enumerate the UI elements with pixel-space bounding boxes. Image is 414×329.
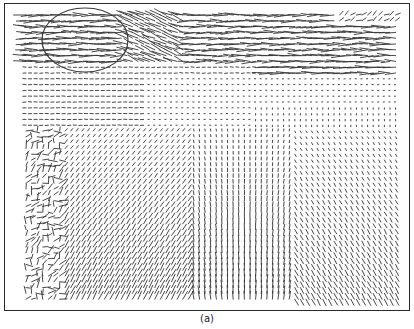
- figure-caption: (a): [0, 313, 414, 324]
- figure: (a): [0, 0, 414, 329]
- vector-field-plot: [4, 3, 410, 311]
- flow-vectors: [13, 9, 400, 306]
